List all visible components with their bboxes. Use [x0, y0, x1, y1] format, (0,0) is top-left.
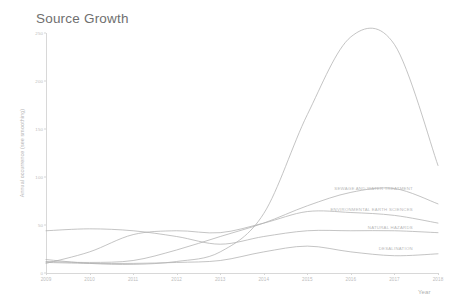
x-tick-label: 2010: [84, 277, 95, 282]
x-tick-label: 2012: [171, 277, 182, 282]
series-label: DESALINATION: [379, 245, 413, 250]
y-tick-label: 200: [35, 79, 43, 84]
series-line: [46, 229, 438, 244]
chart-title: Source Growth: [36, 11, 129, 26]
chart-figure: Source Growth Annual occurrence (see smo…: [0, 0, 455, 308]
series-label: NATURAL HAZARDS: [368, 224, 413, 229]
y-axis-title: Annual occurrence (see smoothing): [19, 109, 25, 198]
y-tick-label: 50: [38, 223, 43, 228]
series-label: ENVIRONMENTAL EARTH SCIENCES: [331, 206, 413, 211]
x-tick-label: 2014: [258, 277, 269, 282]
x-tick-mark: [220, 273, 221, 275]
x-axis-title: Year: [418, 289, 431, 295]
x-tick-label: 2017: [389, 277, 400, 282]
x-tick-mark: [177, 273, 178, 275]
y-tick-label: 250: [35, 31, 43, 36]
x-tick-mark: [46, 273, 47, 275]
plot-area: [46, 33, 438, 273]
series-label: SEWAGE AND WATER TREATMENT: [334, 186, 413, 191]
y-tick-label: 0: [40, 271, 43, 276]
x-tick-mark: [307, 273, 308, 275]
series-lines: [46, 33, 438, 273]
y-tick-label: 150: [35, 127, 43, 132]
x-tick-mark: [133, 273, 134, 275]
x-tick-label: 2009: [41, 277, 52, 282]
x-tick-label: 2018: [433, 277, 444, 282]
x-tick-mark: [90, 273, 91, 275]
x-tick-mark: [264, 273, 265, 275]
x-tick-label: 2015: [302, 277, 313, 282]
x-tick-mark: [394, 273, 395, 275]
series-line: [46, 211, 438, 264]
x-axis-line: [46, 273, 438, 274]
x-tick-mark: [438, 273, 439, 275]
y-tick-label: 100: [35, 175, 43, 180]
x-tick-label: 2013: [215, 277, 226, 282]
x-tick-label: 2011: [128, 277, 138, 282]
x-tick-mark: [351, 273, 352, 275]
x-tick-label: 2016: [346, 277, 357, 282]
